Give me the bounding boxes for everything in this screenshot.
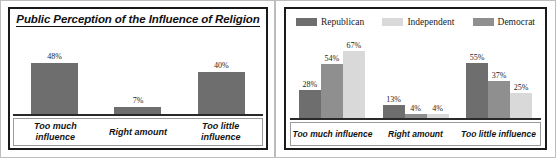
bar-democrat-right-amount [405,114,427,118]
bar-slot-independent: 67% [343,33,365,118]
bar-value-label: 67% [346,42,361,50]
x-axis-label-too-little-influence: Too little influence [179,121,262,143]
bar-group-too-much-influence: 48% [13,30,96,114]
left-chart-panel: Public Perception of the Influence of Re… [0,0,275,158]
bar-value-label: 40% [214,62,229,70]
legend-label-republican: Republican [321,17,364,27]
bar-value-label: 28% [302,81,317,89]
legend-label-independent: Independent [407,17,454,27]
dual-chart-figure: Public Perception of the Influence of Re… [0,0,556,158]
x-axis-label-line-1: Too much [14,121,97,132]
bar-value-label: 13% [386,96,401,104]
x-axis-label-line-2: influence [179,132,262,143]
bar-value-label: 25% [514,84,529,92]
bar-democrat-too-little-influence [488,81,510,118]
x-axis-label-line-1: Too little [179,121,262,132]
page-title: Public Perception of the Influence of Re… [14,13,262,25]
bar-slot-republican: 55% [466,33,488,118]
bar-too-little-influence [198,72,245,114]
bar-value-label: 55% [470,54,485,62]
bar-slot-democrat: 54% [321,33,343,118]
right-chart-frame: Republican Independent Democrat 28% [284,7,547,150]
x-axis-label-right-amount: Right amount [97,127,180,138]
legend-item-democrat: Democrat [473,17,535,27]
x-axis-label-right-amount: Right amount [374,129,457,139]
legend-swatch-icon [473,18,494,26]
bar-slot-independent: 25% [510,33,532,118]
bar-value-label: 37% [492,72,507,80]
bar-group-right-amount: 7% [96,30,179,114]
right-chart-x-axis-labels: Too much influence Right amount Too litt… [290,122,541,146]
x-axis-label-line-1: Right amount [97,127,180,138]
bar-group-right-amount: 13% 4% 4% [374,33,458,118]
bar-slot-democrat: 37% [488,33,510,118]
bar-too-much-influence [31,63,78,114]
x-axis-label-too-much-influence: Too much influence [291,129,374,139]
left-chart-x-axis-labels: Too much influence Right amount Too litt… [13,118,263,146]
x-axis-label-too-much-influence: Too much influence [14,121,97,143]
bar-slot-independent: 4% [427,33,449,118]
bar-value-label: 4% [432,105,443,113]
x-axis-label-too-little-influence: Too little influence [457,129,540,139]
bar-independent-too-little-influence [510,93,532,118]
bar-slot-republican: 28% [299,33,321,118]
legend-item-republican: Republican [296,17,364,27]
bar-group-too-much-influence: 28% 54% 67% [290,33,374,118]
legend-label-democrat: Democrat [498,17,535,27]
bar-republican-too-much-influence [299,90,321,118]
bar-value-label: 54% [324,55,339,63]
bar-value-label: 7% [133,97,144,105]
bar-independent-right-amount [427,114,449,118]
legend-swatch-icon [296,18,317,26]
bar-group-too-little-influence: 40% [180,30,263,114]
legend-item-independent: Independent [382,17,454,27]
bar-independent-too-much-influence [343,51,365,118]
left-chart-title-text: Public Perception of the Influence of Re… [16,13,259,27]
right-chart-panel: Republican Independent Democrat 28% [275,0,556,158]
legend-swatch-icon [382,18,403,26]
bar-democrat-too-much-influence [321,64,343,118]
left-chart-plot-area: 48% 7% 40% [13,30,263,116]
bar-group-too-little-influence: 55% 37% 25% [457,33,541,118]
bar-value-label: 4% [410,105,421,113]
x-axis-label-line-2: influence [14,132,97,143]
bar-republican-right-amount [383,105,405,118]
right-chart-plot-area: 28% 54% 67% 13% [290,33,541,120]
bar-right-amount [114,107,161,114]
bar-value-label: 48% [47,53,62,61]
bar-republican-too-little-influence [466,63,488,118]
left-chart-frame: Public Perception of the Influence of Re… [8,7,268,150]
bar-slot-republican: 13% [383,33,405,118]
bar-slot-democrat: 4% [405,33,427,118]
legend: Republican Independent Democrat [292,15,539,29]
